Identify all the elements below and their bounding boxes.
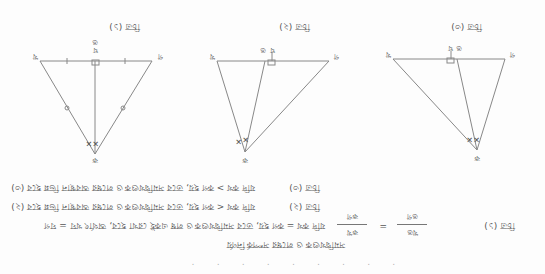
formula-rhs-den: ঙগ	[407, 210, 418, 223]
text-line-1-ref: চিত্র (১)	[484, 218, 515, 233]
figure-1-side-left	[95, 61, 152, 154]
figure-3-angle-mark: ✕	[466, 135, 473, 144]
figure-1-label-foot: ঘ	[92, 46, 99, 55]
figure-3-angle-mark: ✕	[473, 135, 480, 144]
figure-2-title: চিত্র (২)	[279, 19, 310, 34]
text-line-intro: সমদ্বিখণ্ডক ও লম্বের সম্পর্ক নির্ণয়	[227, 237, 345, 252]
figure-1-label-left: খ	[32, 52, 38, 61]
figure-3-label-apex: ক	[474, 154, 481, 163]
figure-3-title: চিত্র (৩)	[451, 19, 482, 34]
formula-rhs: খঙ ঙগ	[397, 210, 427, 239]
formula-lhs: কখ কগ	[337, 210, 367, 239]
formula-equals: =	[379, 222, 387, 232]
figure-3-label-foot: ঘ	[447, 44, 454, 53]
figure-3-side-right	[393, 59, 477, 150]
figure-2-side-left	[245, 61, 329, 152]
fraction-bar	[337, 224, 367, 225]
figure-1-label-foot-alt: ঙ	[92, 38, 98, 47]
figure-1-angle-mark: ✕✕	[86, 139, 99, 148]
formula-rhs-num: খঙ	[407, 226, 418, 239]
text-line-3: যদি কখ > কগ হয়, তবে সমদ্বিখণ্ডক ও লম্বে…	[11, 180, 255, 195]
formula-lhs-den: কগ	[347, 210, 358, 223]
scanned-page: ✕✕ ✕ ✕ ✕ ✕ খ গ ক ঘ ঙ খ গ ক ঘ ঙ খ গ ক ঘ ঙ…	[0, 0, 545, 274]
figure-2-label-bisector: ঙ	[260, 46, 266, 55]
scan-artifact: · · · · · · · · ·	[182, 259, 395, 268]
figure-2-angle-mark: ✕	[242, 135, 249, 144]
figure-2-label-foot: ঘ	[269, 46, 276, 55]
figure-3-triangle	[393, 51, 505, 150]
formula-lhs-num: কখ	[347, 226, 358, 239]
figure-1-label-apex: ক	[92, 156, 99, 165]
figure-2-label-apex: ক	[242, 156, 249, 165]
text-line-2: যদি কখ < কগ হয়, তবে সমদ্বিখণ্ডক ও লম্বে…	[11, 199, 255, 214]
figure-3-label-bisector: ঙ	[456, 44, 462, 53]
figure-2-label-left: খ	[209, 52, 215, 61]
figure-3-side-left	[477, 59, 505, 150]
figure-1-title: চিত্র (১)	[109, 19, 140, 34]
figure-3-label-right: গ	[509, 50, 515, 59]
text-line-3-ref: চিত্র (৩)	[289, 180, 320, 195]
figure-2-angle-mark: ✕	[235, 137, 242, 146]
figure-3-label-left: খ	[385, 50, 391, 59]
figure-1-label-right: গ	[157, 52, 163, 61]
figure-2-triangle	[217, 52, 329, 152]
text-line-1: যদি কখ = কগ হয়, তবে সমদ্বিখণ্ডক ও লম্ব …	[44, 218, 325, 233]
text-line-2-ref: চিত্র (২)	[289, 199, 320, 214]
figure-2-label-right: গ	[333, 52, 339, 61]
fraction-bar	[397, 224, 427, 225]
